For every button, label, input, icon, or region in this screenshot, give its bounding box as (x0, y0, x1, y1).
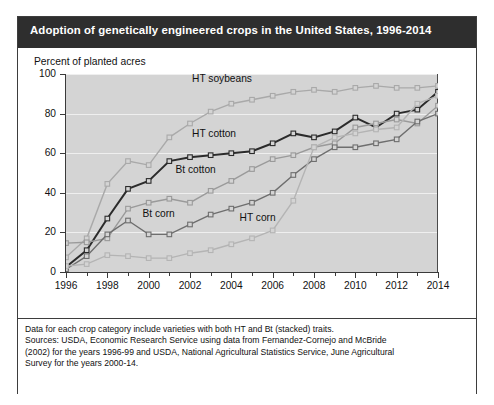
data-point-marker (332, 145, 337, 150)
x-axis-tick-label: 1996 (46, 280, 86, 291)
y-axis-tick-label: 80 (26, 108, 56, 119)
x-axis-tick (397, 273, 398, 278)
data-point-marker (146, 256, 151, 261)
data-point-marker (167, 256, 172, 261)
data-point-marker (312, 88, 317, 93)
series-line (66, 114, 438, 270)
footnote-line: (2002) for the years 1996-99 and USDA, N… (25, 347, 470, 358)
data-point-marker (436, 93, 438, 98)
data-point-marker (353, 115, 358, 120)
x-axis-tick (190, 273, 191, 278)
data-point-marker (188, 251, 193, 256)
data-point-marker (208, 109, 213, 114)
series-label-bt-cotton: Bt cotton (176, 164, 216, 175)
data-point-marker (229, 101, 234, 106)
data-point-marker (353, 86, 358, 91)
y-axis-tick-label: 60 (26, 147, 56, 158)
data-point-marker (229, 179, 234, 184)
data-point-marker (436, 103, 438, 108)
data-point-marker (188, 155, 193, 160)
chart-footnote: Data for each crop category include vari… (18, 318, 476, 394)
x-axis-tick (211, 273, 212, 276)
y-axis-label: Percent of planted acres (34, 56, 146, 67)
data-point-marker (146, 163, 151, 168)
y-axis-tick-label: 0 (26, 266, 56, 277)
data-point-marker (105, 182, 110, 187)
footnote-line: Sources: USDA, Economic Research Service… (25, 335, 470, 346)
data-point-marker (188, 222, 193, 227)
data-point-marker (126, 254, 131, 259)
data-point-marker (394, 137, 399, 142)
chart-plot-panel: Percent of planted acres 020406080100199… (18, 48, 476, 318)
x-axis-tick (417, 273, 418, 276)
data-point-marker (436, 111, 438, 116)
data-point-marker (229, 151, 234, 156)
data-point-marker (394, 86, 399, 91)
series-label-ht-cotton: HT cotton (192, 128, 236, 139)
data-point-marker (105, 216, 110, 221)
data-point-marker (105, 253, 110, 258)
y-axis-tick-label: 40 (26, 187, 56, 198)
y-axis-tick (60, 153, 65, 154)
data-point-marker (332, 135, 337, 140)
x-axis-tick-label: 2012 (377, 280, 417, 291)
data-point-marker (270, 141, 275, 146)
series-ht-cotton (66, 90, 438, 270)
series-label-ht-soybeans: HT soybeans (192, 73, 252, 84)
data-point-marker (105, 232, 110, 237)
data-point-marker (146, 200, 151, 205)
y-axis-tick-label: 100 (26, 68, 56, 79)
data-point-marker (66, 241, 68, 246)
page-title: Adoption of genetically engineered crops… (30, 24, 432, 36)
data-point-marker (270, 93, 275, 98)
data-point-marker (84, 254, 89, 259)
data-point-marker (208, 189, 213, 194)
y-axis-tick (60, 193, 65, 194)
x-axis-tick (252, 273, 253, 276)
data-point-marker (374, 127, 379, 132)
data-point-marker (291, 131, 296, 136)
data-point-marker (374, 141, 379, 146)
x-axis-tick-label: 2002 (170, 280, 210, 291)
y-axis-tick (60, 74, 65, 75)
data-point-marker (250, 97, 255, 102)
data-point-marker (167, 135, 172, 140)
chart-figure: Adoption of genetically engineered crops… (17, 16, 477, 394)
data-point-marker (270, 191, 275, 196)
x-axis-tick (376, 273, 377, 276)
data-point-marker (332, 129, 337, 134)
data-point-marker (374, 84, 379, 89)
footnote-line: Data for each crop category include vari… (25, 324, 470, 335)
data-point-marker (126, 187, 131, 192)
series-layer (66, 74, 438, 272)
data-point-marker (84, 248, 89, 253)
data-point-marker (250, 200, 255, 205)
x-axis-tick (169, 273, 170, 276)
x-axis-tick-label: 2000 (129, 280, 169, 291)
data-point-marker (291, 198, 296, 203)
data-point-marker (291, 153, 296, 158)
data-point-marker (394, 125, 399, 130)
series-label-ht-corn: HT corn (240, 212, 276, 223)
data-point-marker (250, 167, 255, 172)
data-point-marker (208, 153, 213, 158)
x-axis-tick (314, 273, 315, 278)
x-axis-tick (231, 273, 232, 278)
footnote-line: Survey for the years 2000-14. (25, 358, 470, 369)
data-point-marker (394, 117, 399, 122)
x-axis-tick-label: 1998 (87, 280, 127, 291)
x-axis-tick (273, 273, 274, 278)
data-point-marker (291, 173, 296, 178)
x-axis-tick (355, 273, 356, 278)
data-point-marker (415, 101, 420, 106)
x-axis-tick (335, 273, 336, 276)
x-axis-tick-label: 2004 (211, 280, 251, 291)
data-point-marker (146, 179, 151, 184)
data-point-marker (126, 206, 131, 211)
x-axis-tick (438, 273, 439, 278)
series-ht-corn (66, 93, 438, 268)
data-point-marker (312, 135, 317, 140)
x-axis-tick-label: 2006 (253, 280, 293, 291)
data-point-marker (374, 121, 379, 126)
data-point-marker (126, 159, 131, 164)
